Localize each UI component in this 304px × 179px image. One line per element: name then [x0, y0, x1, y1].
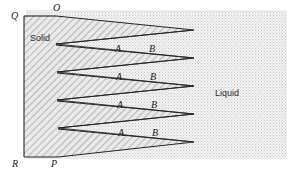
vertex-label-P: P	[51, 159, 57, 169]
vertex-label-Q: Q	[11, 11, 18, 21]
point-label-b-1: B	[149, 44, 155, 54]
point-label-a-1: A	[115, 44, 121, 54]
diagram-canvas	[0, 0, 304, 179]
liquid-region-label: Liquid	[215, 89, 239, 98]
point-label-b-2: B	[150, 72, 156, 82]
point-label-b-3: B	[151, 100, 157, 110]
dendrite-solidification-figure: Q O R P Solid Liquid A B A B A B A B	[0, 0, 304, 179]
point-label-a-2: A	[116, 72, 122, 82]
point-label-a-4: A	[118, 128, 124, 138]
solid-region-label: Solid	[30, 34, 50, 43]
vertex-label-R: R	[12, 159, 18, 169]
point-label-b-4: B	[152, 128, 158, 138]
point-label-a-3: A	[117, 100, 123, 110]
vertex-label-O: O	[53, 3, 60, 13]
